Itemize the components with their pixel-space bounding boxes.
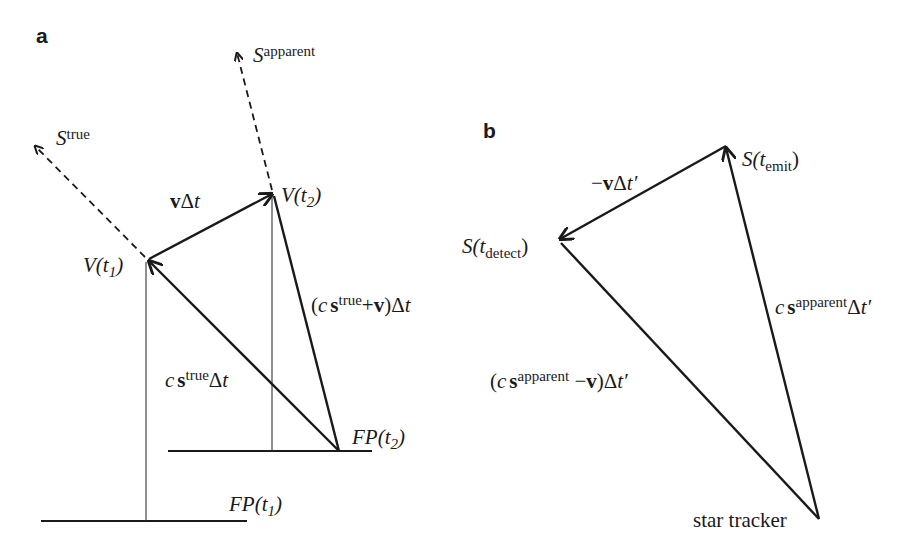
label-fp-t1: FP(t1) [228,492,282,519]
label-s-apparent: Sapparent [253,43,316,67]
label-star-tracker: star tracker [693,508,787,532]
v-dt-vector [149,194,272,259]
label-s-detect: S(tdetect) [462,234,528,261]
c-strue-dt-vector [149,261,339,451]
label-v-t2: V(t2) [281,183,321,210]
panel-b: b S(temit) S(tdetect) −vΔt′ csapparentΔt… [462,119,872,532]
label-s-emit: S(temit) [742,147,799,174]
neg-v-dt-vector [560,146,726,239]
figure-canvas: a Sapparent Strue V(t2) V(t1) vΔt [0,0,924,554]
label-v-t1: V(t1) [83,253,123,280]
label-fp-t2: FP(t2) [351,425,405,452]
label-v-delta-t: vΔt [170,189,201,213]
panel-a: a Sapparent Strue V(t2) V(t1) vΔt [35,24,412,521]
label-c-strue-dt: cstrueΔt [165,367,229,392]
s-apparent-direction-arrow [237,53,272,190]
label-c-strue-plus-v-dt: (cstrue+v)Δt [311,292,412,317]
panel-a-label: a [36,24,48,47]
panel-b-label: b [483,119,496,142]
s-true-direction-arrow [35,146,145,257]
label-c-sapparent-minus-v-dt: (csapparent −v)Δt′ [490,368,628,393]
label-s-true: Strue [56,126,90,150]
label-c-sapparent-dt: csapparentΔt′ [775,294,872,319]
c-sapparent-dt-vector [726,148,819,519]
label-neg-v-dt: −vΔt′ [591,171,638,195]
c-strue-plus-v-dt-vector [274,196,339,451]
